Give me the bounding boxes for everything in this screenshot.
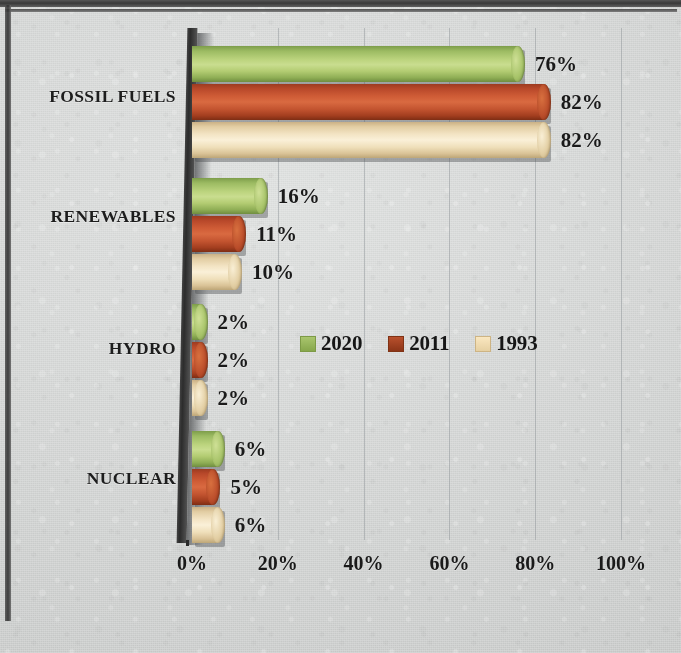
bar-cylinder-body [192,84,544,120]
category-label-renewables: RENEWABLES [0,206,176,227]
bar-cylinder-body [192,46,518,82]
bar-cylinder-end-cap [537,122,551,158]
bar-hydro-2011[interactable] [192,342,201,378]
bar-cylinder-body [192,122,544,158]
gridline-100 [621,28,622,540]
bar-cylinder-end-cap [254,178,268,214]
bar-cylinder-body [192,178,261,214]
legend-label-2020: 2020 [321,331,362,356]
axis-baseline-tick [186,540,189,546]
bar-value-label: 6% [235,437,267,462]
bar-cylinder-end-cap [211,431,225,467]
bar-hydro-2020[interactable] [192,304,201,340]
x-tick-40: 40% [344,552,384,575]
bar-value-label: 6% [235,513,267,538]
bar-chart-figure: FOSSIL FUELS76%82%82%RENEWABLES16%11%10%… [0,0,681,653]
bar-cylinder-end-cap [228,254,242,290]
bar-renewables-2020[interactable] [192,178,261,214]
bar-nuclear-2011[interactable] [192,469,213,505]
x-tick-20: 20% [258,552,298,575]
category-label-hydro: HYDRO [0,338,176,359]
bar-fossil-fuels-2020[interactable] [192,46,518,82]
category-label-fossil-fuels: FOSSIL FUELS [0,86,176,107]
bar-value-label: 82% [561,128,603,153]
bar-cylinder-end-cap [537,84,551,120]
bar-cylinder-end-cap [194,380,208,416]
bar-cylinder-end-cap [211,507,225,543]
bar-renewables-2011[interactable] [192,216,239,252]
x-tick-100: 100% [596,552,646,575]
legend-item-2020[interactable]: 2020 [300,331,362,356]
x-tick-60: 60% [429,552,469,575]
x-tick-0: 0% [177,552,207,575]
bar-cylinder-end-cap [194,304,208,340]
bar-value-label: 82% [561,90,603,115]
swatch-2020-icon [300,336,316,352]
legend-item-1993[interactable]: 1993 [475,331,537,356]
swatch-1993-icon [475,336,491,352]
legend-label-1993: 1993 [496,331,537,356]
frame-inner-top-border [5,9,677,12]
x-tick-80: 80% [515,552,555,575]
bar-cylinder-end-cap [194,342,208,378]
swatch-2011-icon [388,336,404,352]
bar-renewables-1993[interactable] [192,254,235,290]
category-label-nuclear: NUCLEAR [0,468,176,489]
bar-nuclear-2020[interactable] [192,431,218,467]
legend-label-2011: 2011 [409,331,449,356]
bar-hydro-1993[interactable] [192,380,201,416]
bar-nuclear-1993[interactable] [192,507,218,543]
bar-value-label: 11% [256,222,297,247]
bar-value-label: 10% [252,260,294,285]
bar-cylinder-end-cap [511,46,525,82]
bar-fossil-fuels-2011[interactable] [192,84,544,120]
bar-value-label: 16% [278,184,320,209]
bar-value-label: 2% [218,348,250,373]
bar-value-label: 76% [535,52,577,77]
bar-value-label: 2% [218,310,250,335]
bar-value-label: 2% [218,386,250,411]
frame-top-border [0,0,681,7]
chart-legend: 2020 2011 1993 [300,331,537,356]
bar-value-label: 5% [230,475,262,500]
bar-fossil-fuels-1993[interactable] [192,122,544,158]
legend-item-2011[interactable]: 2011 [388,331,449,356]
